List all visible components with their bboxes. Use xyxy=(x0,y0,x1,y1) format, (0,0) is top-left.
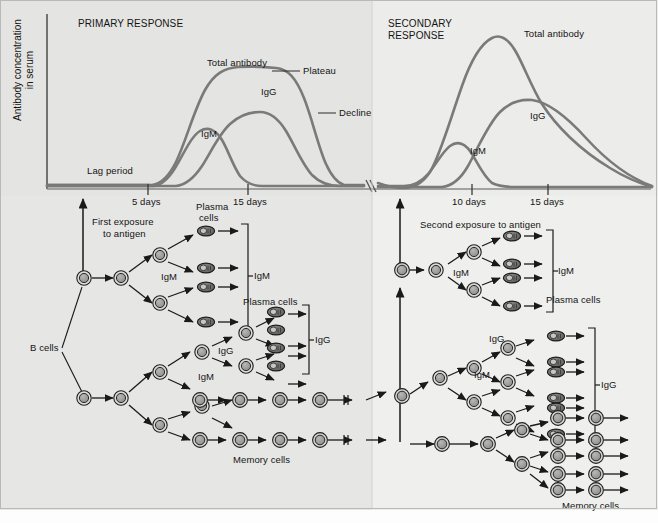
secondary-activated-bcell-lower xyxy=(433,371,447,385)
secondary-memory-precursor-3 xyxy=(515,423,530,438)
primary-igm-branch-lower-label: IgM xyxy=(198,371,214,382)
secondary-memory-precursor-1 xyxy=(435,437,450,452)
secondary-memory-cell-c2r2 xyxy=(589,433,604,448)
secondary-memory-cell-c1r5 xyxy=(551,483,566,498)
secondary-igm-bracket-label: IgM xyxy=(558,265,574,276)
secondary-memory-cell-c1r2 xyxy=(551,433,566,448)
primary-plasma-cell-l3 xyxy=(267,343,284,353)
secondary-plasma-cell-l2 xyxy=(547,357,564,367)
secondary-bcell-igg2 xyxy=(501,375,515,389)
secondary-memory-cell-lower xyxy=(395,389,410,404)
secondary-plasma-cell-u2 xyxy=(503,259,520,269)
primary-memory-cell-r1c4 xyxy=(313,393,328,408)
primary-memory-cell-r1c1 xyxy=(193,393,208,408)
secondary-plasma-cell-l1 xyxy=(547,331,564,341)
primary-plasma-cells-lower-label: Plasma cells xyxy=(243,296,298,307)
figure-root: Antibody concentration in serum xyxy=(0,0,658,523)
primary-plasma-cell-l2 xyxy=(267,325,284,335)
secondary-memory-precursor-4 xyxy=(515,457,530,472)
secondary-plasma-cell-u1 xyxy=(503,231,520,241)
primary-bcell-lower xyxy=(77,391,91,405)
secondary-igg-bracket-label: IgG xyxy=(601,379,617,390)
second-exposure-label: Second exposure to antigen xyxy=(420,219,541,230)
primary-igg-bracket-label: IgG xyxy=(315,334,331,345)
secondary-memory-cell-c2r4 xyxy=(589,467,604,482)
secondary-bcell-u2 xyxy=(467,283,481,297)
secondary-plasma-cell-u4 xyxy=(503,301,520,311)
secondary-plasma-cell-u3 xyxy=(503,273,520,283)
first-exposure-label-line2: to antigen xyxy=(103,228,146,239)
primary-memory-cell-r1c3 xyxy=(273,393,288,408)
primary-igg-bracket xyxy=(302,305,309,374)
secondary-bcell-u1 xyxy=(467,245,481,259)
secondary-memory-cell-c2r5 xyxy=(589,483,604,498)
secondary-igm-branch-lower-label: IgM xyxy=(474,369,490,380)
primary-plasma-cell-u4 xyxy=(197,317,214,327)
primary-memory-cell-r1c2 xyxy=(233,393,248,408)
secondary-plasma-cells-label: Plasma cells xyxy=(546,294,601,305)
primary-memory-cell-r2c2 xyxy=(233,433,248,448)
secondary-memory-cell-c2r3 xyxy=(589,449,604,464)
primary-activated-bcell-lower xyxy=(114,391,128,405)
secondary-memory-cell-upper xyxy=(395,263,410,278)
primary-plasma-cells-upper-label-line2: cells xyxy=(199,212,219,223)
primary-bcell-u1 xyxy=(153,248,167,262)
secondary-memory-cell-c1r4 xyxy=(551,467,566,482)
b-cells-label: B cells xyxy=(30,342,59,353)
bcell-lower-branch-line xyxy=(62,352,82,392)
primary-plasma-cell-u1 xyxy=(197,226,214,236)
cell-lineage-svg xyxy=(0,0,658,523)
secondary-plasma-cell-l3 xyxy=(547,367,564,377)
secondary-memory-cell-c1r1 xyxy=(551,411,566,426)
primary-plasma-cell-l1 xyxy=(267,307,284,317)
secondary-memory-cells-label: Memory cells xyxy=(562,500,619,511)
secondary-bcell-l2 xyxy=(467,395,481,409)
secondary-activated-bcell-upper xyxy=(429,263,443,277)
first-exposure-label-line1: First exposure xyxy=(92,216,154,227)
primary-bcell-igg2 xyxy=(239,359,253,373)
primary-memory-cells-label: Memory cells xyxy=(233,454,290,465)
primary-bcell-l1 xyxy=(153,365,167,379)
primary-plasma-cell-u2 xyxy=(197,263,214,273)
primary-bcell-igg1 xyxy=(239,326,253,340)
primary-plasma-cells-upper-label-line1: Plasma xyxy=(196,201,228,212)
primary-bcell-l2 xyxy=(153,418,167,432)
bcell-upper-branch-line xyxy=(62,287,82,348)
secondary-igg-branch-label: IgG xyxy=(489,333,505,344)
secondary-memory-precursor-2 xyxy=(481,437,496,452)
primary-plasma-cell-l4 xyxy=(267,361,284,371)
secondary-plasma-cell-l4 xyxy=(547,393,564,403)
secondary-memory-cell-c2r1 xyxy=(589,411,604,426)
primary-bcell-l1a xyxy=(195,345,209,359)
primary-plasma-cell-u3 xyxy=(197,282,214,292)
primary-igm-branch-upper-label: IgM xyxy=(161,271,177,282)
memory-to-secondary-connectors xyxy=(328,392,386,445)
primary-memory-cell-r2c3 xyxy=(273,433,288,448)
primary-igm-bracket xyxy=(241,224,248,328)
secondary-bcell-igg3 xyxy=(501,411,515,425)
primary-igg-branch-label: IgG xyxy=(218,345,234,356)
secondary-memory-cell-c1r3 xyxy=(551,449,566,464)
primary-memory-cell-r2c1 xyxy=(193,433,208,448)
primary-memory-cell-r2c4 xyxy=(313,433,328,448)
secondary-igm-branch-upper-label: IgM xyxy=(453,267,469,278)
primary-igm-bracket-label: IgM xyxy=(254,270,270,281)
primary-activated-bcell-upper xyxy=(114,271,128,285)
primary-bcell-u2 xyxy=(153,296,167,310)
primary-bcell-upper xyxy=(77,271,91,285)
